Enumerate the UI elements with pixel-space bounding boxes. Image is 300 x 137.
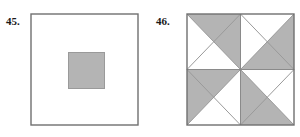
figure-45: 45.	[0, 0, 150, 137]
figure-45-number-label: 45.	[6, 16, 20, 27]
inner-shaded-square-45	[69, 53, 105, 89]
figure-46-drawing	[186, 13, 296, 127]
figure-45-drawing	[30, 13, 140, 127]
worksheet-page: 45. 46.	[0, 0, 300, 137]
figure-46-number-label: 46.	[156, 16, 170, 27]
figure-46: 46.	[150, 0, 300, 137]
